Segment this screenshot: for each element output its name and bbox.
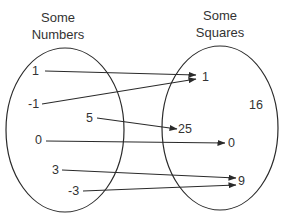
- domain-title-line1: Some: [18, 9, 98, 26]
- codomain-element: 0: [228, 136, 235, 150]
- codomain-title-line2: Squares: [180, 24, 260, 41]
- codomain-title-line1: Some: [180, 7, 260, 24]
- domain-set-title: Some Numbers: [18, 9, 98, 43]
- arrow-neg1-to-1: [42, 79, 196, 104]
- arrow-1-to-1: [45, 71, 196, 75]
- codomain-element: 25: [178, 122, 192, 136]
- domain-element: 0: [35, 133, 42, 147]
- domain-element: 5: [86, 111, 93, 125]
- codomain-set-title: Some Squares: [180, 7, 260, 41]
- arrow-neg3-to-9: [83, 185, 236, 191]
- domain-element: -3: [68, 184, 79, 198]
- domain-element: -1: [28, 97, 39, 111]
- domain-element: 1: [32, 64, 39, 78]
- domain-title-line2: Numbers: [18, 26, 98, 43]
- arrow-3-to-9: [62, 170, 236, 178]
- arrow-0-to-0: [46, 141, 225, 143]
- codomain-element: 9: [238, 174, 245, 188]
- arrow-5-to-25: [97, 118, 177, 129]
- codomain-element: 1: [202, 70, 209, 84]
- codomain-element: 16: [249, 98, 263, 112]
- domain-element: 3: [52, 163, 59, 177]
